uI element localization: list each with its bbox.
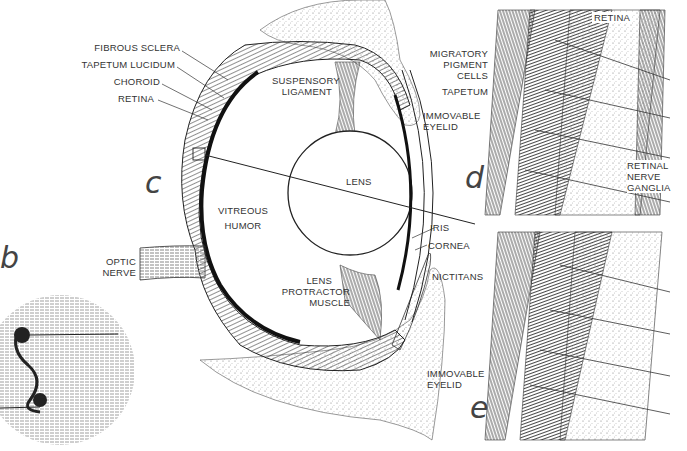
label-line: RETINAL [627,160,671,171]
label-line: CELLS [420,70,488,81]
label-choroid: CHOROID [114,76,160,87]
label-line: VITREOUS [213,205,273,216]
label-line: NERVE [627,171,671,182]
label-line: IMMOVABLE [423,110,481,121]
optic-nerve-shape [140,246,205,280]
label-line: LIGAMENT [272,86,332,97]
label-line: LENS [260,275,350,286]
label-line: MUSCLE [260,297,350,308]
label-tapetum-lucidum: TAPETUM LUCIDUM [81,59,175,70]
lens-shape [288,131,412,255]
label-retina-detail: RETINA [592,12,632,23]
panel-b-sketch [0,295,135,445]
label-line: HUMOR [213,220,273,231]
panel-label-b: b [0,240,19,275]
label-tapetum: TAPETUM [442,86,488,97]
label-suspensory-ligament: SUSPENSORY LIGAMENT [272,75,332,97]
label-line: MIGRATORY [420,48,488,59]
label-lens-protractor-muscle: LENS PROTRACTOR MUSCLE [260,275,350,308]
label-retina: RETINA [118,93,154,104]
label-line: OPTIC [98,256,136,267]
label-line: IMMOVABLE [427,368,485,379]
panel-label-d: d [465,160,484,195]
label-immovable-eyelid-top: IMMOVABLE EYELID [423,110,481,132]
label-line: NERVE [98,267,136,278]
label-nictitans: NICTITANS [432,271,483,282]
label-line: SUSPENSORY [272,75,332,86]
label-line: EYELID [427,379,485,390]
panel-label-c: c [145,165,162,200]
label-iris: IRIS [430,222,449,233]
label-line: EYELID [423,121,481,132]
panel-label-e: e [470,390,488,425]
label-cornea: CORNEA [428,240,470,251]
suspensory-ligament-shape [335,62,360,135]
label-fibrous-sclera: FIBROUS SCLERA [94,42,180,53]
label-lens: LENS [346,176,372,187]
label-immovable-eyelid-bottom: IMMOVABLE EYELID [427,368,485,390]
label-line: GANGLIA [627,182,671,193]
label-migratory-pigment-cells: MIGRATORY PIGMENT CELLS [420,48,488,81]
label-optic-nerve: OPTIC NERVE [98,256,136,278]
label-line: PIGMENT [420,59,488,70]
label-retinal-nerve-ganglia: RETINAL NERVE GANGLIA [627,160,671,193]
label-vitreous-humor: VITREOUS HUMOR [213,205,273,231]
panel-e-detail [485,232,670,440]
label-line: PROTRACTOR [260,286,350,297]
